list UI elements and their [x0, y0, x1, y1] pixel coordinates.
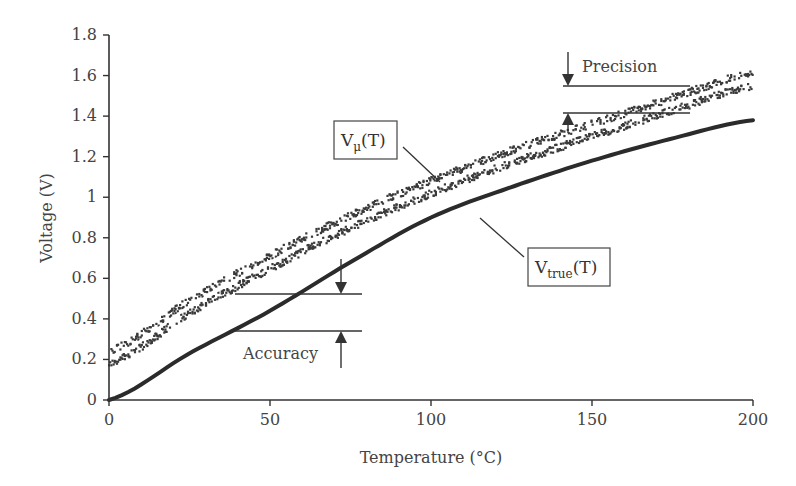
x-tick-label: 100	[416, 410, 447, 429]
y-tick-label: 0.6	[72, 268, 97, 287]
y-tick-label: 1	[87, 187, 97, 206]
voltage-temperature-chart: 05010015020000.20.40.60.811.21.41.61.8 T…	[0, 0, 796, 486]
y-tick-label: 1.4	[72, 106, 97, 125]
x-tick-label: 150	[577, 410, 608, 429]
accuracy-label: Accuracy	[242, 344, 318, 363]
x-tick-label: 50	[260, 410, 280, 429]
vmu-label: Vμ(T)	[334, 121, 440, 182]
y-tick-label: 1.6	[72, 66, 97, 85]
vtrue-line	[109, 120, 753, 400]
y-tick-label: 0.2	[72, 349, 97, 368]
x-axis-title: Temperature (°C)	[360, 448, 503, 467]
y-tick-label: 0.8	[72, 228, 97, 247]
y-tick-label: 1.8	[72, 25, 97, 44]
precision-label: Precision	[582, 57, 657, 76]
x-tick-label: 0	[104, 410, 114, 429]
y-tick-label: 0	[87, 390, 97, 409]
y-tick-label: 1.2	[72, 147, 97, 166]
x-tick-label: 200	[738, 410, 769, 429]
vtrue-label: Vtrue(T)	[480, 218, 610, 286]
y-axis-title: Voltage (V)	[37, 173, 56, 264]
series-lines	[109, 80, 753, 400]
precision-annotation: Precision	[562, 52, 690, 133]
y-tick-label: 0.4	[72, 309, 97, 328]
